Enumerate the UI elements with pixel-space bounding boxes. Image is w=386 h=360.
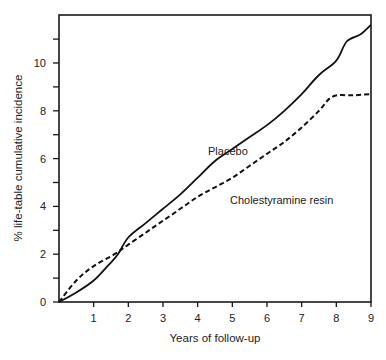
x-axis-ticks: 123456789 xyxy=(91,302,374,324)
placebo-line xyxy=(59,25,371,302)
y-tick-label: 8 xyxy=(40,105,46,117)
y-tick-label: 4 xyxy=(40,200,46,212)
x-tick-label: 7 xyxy=(299,312,305,324)
x-axis-label: Years of follow-up xyxy=(170,332,261,344)
x-tick-label: 9 xyxy=(368,312,374,324)
series-lines xyxy=(59,25,371,302)
y-tick-label: 10 xyxy=(34,57,46,69)
y-tick-label: 6 xyxy=(40,153,46,165)
x-tick-label: 8 xyxy=(333,312,339,324)
y-tick-label: 0 xyxy=(40,296,46,308)
y-axis-ticks: 0246810 xyxy=(34,39,59,308)
y-axis-label: % life-table cumulative incidence xyxy=(12,75,24,242)
x-tick-label: 6 xyxy=(264,312,270,324)
x-tick-label: 3 xyxy=(160,312,166,324)
y-tick-label: 2 xyxy=(40,248,46,260)
x-tick-label: 5 xyxy=(229,312,235,324)
resin-annotation: Cholestyramine resin xyxy=(230,194,333,206)
placebo-annotation: Placebo xyxy=(208,145,248,157)
x-tick-label: 2 xyxy=(125,312,131,324)
cumulative-incidence-chart: 0246810 123456789 Years of follow-up % l… xyxy=(0,0,386,360)
x-tick-label: 4 xyxy=(195,312,201,324)
x-tick-label: 1 xyxy=(91,312,97,324)
